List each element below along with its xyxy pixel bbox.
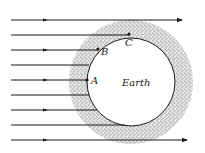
- ray-direction-arrow-icon: [43, 78, 48, 81]
- point-c-marker: [127, 32, 130, 35]
- point-c-label: C: [125, 37, 133, 48]
- point-b-marker: [96, 47, 99, 50]
- ray-direction-arrow-icon: [43, 18, 48, 21]
- earth-atmosphere-diagram: ABC Earth: [0, 0, 205, 153]
- point-b-label: B: [100, 46, 108, 57]
- point-a-label: A: [90, 75, 98, 86]
- earth-label: Earth: [121, 77, 151, 88]
- point-a-marker: [85, 78, 88, 81]
- ray-direction-arrow-icon: [43, 48, 48, 51]
- ray-direction-arrow-icon: [43, 108, 48, 111]
- ray-direction-arrow-icon: [43, 138, 48, 141]
